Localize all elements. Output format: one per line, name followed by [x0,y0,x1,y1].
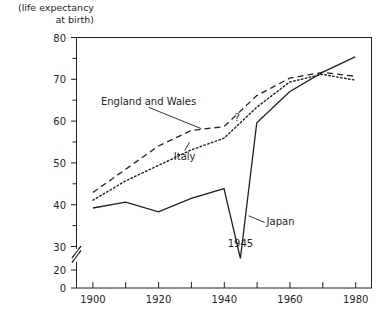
data-series-group [93,57,355,259]
leader-line-japan [249,216,265,223]
y-tick-label-60: 60 [53,116,66,127]
y-tick-label-50: 50 [53,158,66,169]
y-tick-label-20: 20 [53,265,66,276]
y-tick-label-80: 80 [53,33,66,44]
x-tick-labels: 1900 1920 1940 1960 1980 [80,294,368,305]
plot-area-border [77,38,372,289]
annotation-labels: England and Wales Italy Japan 1945 [101,96,295,248]
x-tick-label-1900: 1900 [80,294,105,305]
series-line-japan [93,57,355,259]
annotation-label-1945: 1945 [228,238,253,249]
plot-frame [77,38,372,289]
y-tick-labels: 80 70 60 50 40 30 20 0 [53,33,66,295]
y-tick-label-0: 0 [60,283,66,294]
italy-uncertainty-marker: ? [234,112,239,123]
y-tick-label-70: 70 [53,74,66,85]
x-tick-label-1960: 1960 [277,294,302,305]
x-tick-label-1980: 1980 [343,294,368,305]
x-tick-label-1920: 1920 [146,294,171,305]
series-label-japan: Japan [266,216,295,227]
leader-line-italy [185,142,190,150]
series-line-england-and-wales [93,72,355,192]
y-tick-label-40: 40 [53,200,66,211]
y-axis-break-mask [74,249,79,262]
series-label-italy: Italy [174,151,196,162]
chart-canvas: 80 70 60 50 40 30 20 0 1900 1920 1940 1 [0,0,388,310]
y-tick-label-30: 30 [53,242,66,253]
x-tick-label-1940: 1940 [212,294,237,305]
series-line-italy [93,74,355,200]
leader-line-england-and-wales [149,107,201,128]
series-label-england-and-wales: England and Wales [101,96,196,107]
x-axis-ticks [93,282,356,288]
life-expectancy-line-chart: (life expectancy at birth) [0,0,388,310]
